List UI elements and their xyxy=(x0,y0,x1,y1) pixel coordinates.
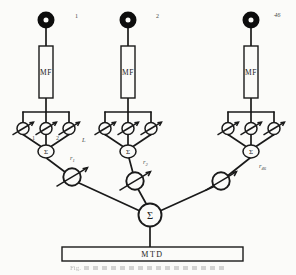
matched-filter-block-2 xyxy=(121,46,135,98)
channel-summer-1 xyxy=(38,145,54,158)
tap-weight-mixer xyxy=(95,122,116,135)
main-summer: Σ xyxy=(139,204,162,227)
matched-filter-block-3 xyxy=(244,46,258,98)
channel-weight-label-2: r2 xyxy=(143,158,149,167)
tap-weight-mixer xyxy=(13,122,34,135)
channel-summer-2 xyxy=(120,145,136,158)
antenna-label-3: 46 xyxy=(274,11,281,18)
channel-weight-label-3: r46 xyxy=(259,162,267,171)
tap-weight-mixer xyxy=(59,122,80,135)
antenna-label-2: 2 xyxy=(156,13,159,19)
channel-weight-mixer-3 xyxy=(206,172,237,191)
caption-smudge xyxy=(84,266,226,270)
tap-weight-mixer xyxy=(241,122,262,135)
tap-weight-mixer xyxy=(218,122,239,135)
antenna-element-1 xyxy=(41,15,52,26)
channel-summer-3 xyxy=(243,145,259,158)
channel-weight-mixer-2 xyxy=(120,172,151,191)
tap-weight-mixer xyxy=(118,122,139,135)
figure-caption: Fig. xyxy=(0,264,296,275)
mtd-label: MTD xyxy=(141,250,163,259)
channel-weight-label-1: r1 xyxy=(70,154,75,163)
tap-label-2: 2 xyxy=(56,135,59,141)
channel-weight-mixer-1 xyxy=(57,168,88,187)
tap-label-1: 1 xyxy=(32,135,35,141)
tap-weight-mixer xyxy=(36,122,57,135)
tap-label-3: L xyxy=(81,136,86,143)
mtd-block: MTD xyxy=(62,247,243,261)
main-summer-symbol: Σ xyxy=(147,210,153,221)
tap-weight-mixer xyxy=(264,122,285,135)
tap-weight-mixer xyxy=(141,122,162,135)
antenna-element-2 xyxy=(123,15,134,26)
antenna-element-3 xyxy=(246,15,257,26)
matched-filter-block-1 xyxy=(39,46,53,98)
antenna-label-1: 1 xyxy=(75,13,78,19)
diagram-canvas: Σ MF xyxy=(0,0,296,275)
